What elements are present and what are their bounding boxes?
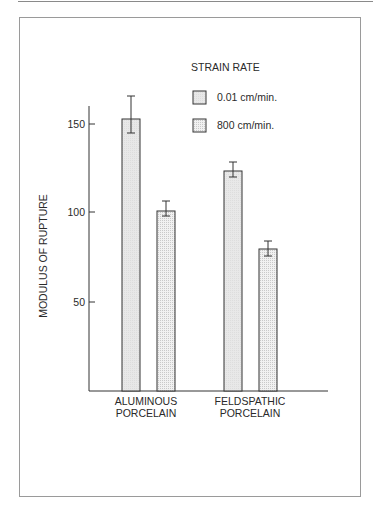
legend-label-fast: 800 cm/min. bbox=[217, 119, 274, 131]
bar-feldspathic-fast bbox=[259, 249, 277, 391]
legend-label-slow: 0.01 cm/min. bbox=[217, 91, 277, 103]
x-category-labels: ALUMINOUS PORCELAIN FELDSPATHIC PORCELAI… bbox=[115, 395, 286, 419]
legend-title: STRAIN RATE bbox=[191, 61, 260, 73]
y-tick-150: 150 bbox=[67, 118, 85, 130]
legend: STRAIN RATE 0.01 cm/min. 800 cm/min. bbox=[191, 61, 277, 132]
bar-feldspathic-slow bbox=[224, 171, 242, 391]
category-feldspathic-line2: PORCELAIN bbox=[220, 407, 281, 419]
category-aluminous-line1: ALUMINOUS bbox=[115, 395, 177, 407]
legend-swatch-slow bbox=[193, 91, 206, 104]
y-tick-100: 100 bbox=[67, 206, 85, 218]
bar-chart: STRAIN RATE 0.01 cm/min. 800 cm/min. 150… bbox=[0, 0, 373, 505]
category-feldspathic-line1: FELDSPATHIC bbox=[215, 395, 286, 407]
bar-aluminous-fast bbox=[157, 211, 175, 391]
bar-group-aluminous bbox=[122, 96, 175, 391]
legend-swatch-fast bbox=[193, 119, 206, 132]
y-tick-50: 50 bbox=[73, 296, 85, 308]
y-axis-label: MODULUS OF RUPTURE bbox=[37, 194, 49, 318]
category-aluminous-line2: PORCELAIN bbox=[116, 407, 177, 419]
y-axis: 150 100 50 MODULUS OF RUPTURE bbox=[37, 106, 95, 391]
bar-group-feldspathic bbox=[224, 162, 277, 391]
bar-aluminous-slow bbox=[122, 119, 140, 391]
